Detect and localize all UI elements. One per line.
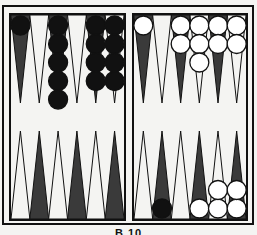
point-bottom_right-3[interactable]	[171, 131, 190, 219]
backgammon-board	[0, 0, 257, 226]
point-bottom_left-1[interactable]	[11, 131, 30, 219]
white-checker[interactable]	[190, 16, 209, 35]
black-checker[interactable]	[86, 72, 105, 91]
white-checker[interactable]	[190, 199, 209, 218]
black-checker[interactable]	[86, 53, 105, 72]
white-checker[interactable]	[171, 35, 190, 54]
point-top_left-2[interactable]	[30, 15, 49, 103]
black-checker[interactable]	[49, 16, 68, 35]
point-bottom_left-2[interactable]	[30, 131, 49, 219]
black-checker[interactable]	[105, 53, 124, 72]
point-top_left-4[interactable]	[68, 15, 87, 103]
point-bottom_right-1[interactable]	[134, 131, 153, 219]
point-bottom_left-3[interactable]	[49, 131, 68, 219]
black-checker[interactable]	[105, 35, 124, 54]
white-checker[interactable]	[171, 16, 190, 35]
white-checker[interactable]	[227, 16, 246, 35]
point-bottom_left-5[interactable]	[86, 131, 105, 219]
black-checker[interactable]	[49, 53, 68, 72]
white-checker[interactable]	[190, 53, 209, 72]
black-checker[interactable]	[49, 72, 68, 91]
white-checker[interactable]	[227, 199, 246, 218]
point-bottom_left-4[interactable]	[68, 131, 87, 219]
black-checker[interactable]	[153, 199, 172, 218]
white-checker[interactable]	[209, 16, 228, 35]
white-checker[interactable]	[190, 35, 209, 54]
white-checker[interactable]	[209, 35, 228, 54]
black-checker[interactable]	[49, 90, 68, 109]
black-checker[interactable]	[86, 35, 105, 54]
black-checker[interactable]	[86, 16, 105, 35]
black-checker[interactable]	[11, 16, 30, 35]
black-checker[interactable]	[105, 16, 124, 35]
diagram-caption: B.10	[0, 227, 257, 235]
white-checker[interactable]	[209, 199, 228, 218]
white-checker[interactable]	[227, 181, 246, 200]
black-checker[interactable]	[49, 35, 68, 54]
white-checker[interactable]	[209, 181, 228, 200]
point-bottom_left-6[interactable]	[105, 131, 124, 219]
white-checker[interactable]	[227, 35, 246, 54]
point-top_right-2[interactable]	[153, 15, 172, 103]
white-checker[interactable]	[134, 16, 153, 35]
black-checker[interactable]	[105, 72, 124, 91]
